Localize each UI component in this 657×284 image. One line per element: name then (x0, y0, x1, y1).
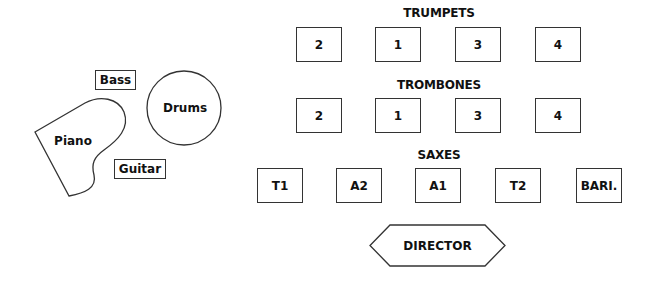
trombone-seat: 4 (535, 98, 581, 133)
sax-seat: BARI. (576, 168, 622, 203)
trombone-seat: 3 (455, 98, 501, 133)
trumpets-label: TRUMPETS (339, 6, 539, 20)
trumpet-seat: 2 (296, 27, 342, 62)
trumpet-seat: 1 (375, 27, 421, 62)
trombones-label: TROMBONES (339, 78, 539, 92)
stage-seating-diagram: Piano Drums Bass Guitar TRUMPETS 2 1 3 4… (0, 0, 657, 284)
sax-seat: T1 (257, 168, 303, 203)
bass-tag: Bass (95, 70, 136, 90)
trumpet-seat: 4 (535, 27, 581, 62)
piano-label: Piano (48, 131, 98, 151)
saxes-label: SAXES (339, 148, 539, 162)
sax-seat: T2 (495, 168, 541, 203)
trombone-seat: 1 (375, 98, 421, 133)
sax-seat: A2 (336, 168, 382, 203)
director-label: DIRECTOR (390, 235, 485, 256)
guitar-tag: Guitar (114, 159, 166, 179)
drums-label: Drums (160, 98, 210, 118)
trombone-seat: 2 (296, 98, 342, 133)
sax-seat: A1 (415, 168, 461, 203)
trumpet-seat: 3 (455, 27, 501, 62)
